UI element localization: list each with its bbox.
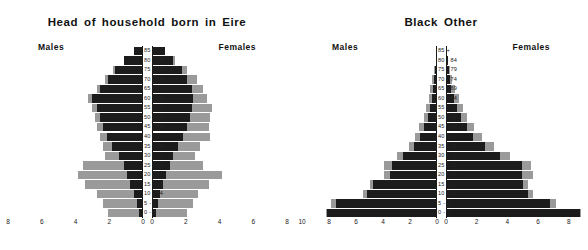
x-axis-tick: 10: [298, 218, 305, 225]
age-band-label: 70 - 74: [144, 75, 152, 85]
pyramid-bar-row: [446, 103, 581, 113]
pyramid-bar-row: [152, 151, 287, 161]
age-band-label-column-black-other: 85 +80 - 8475 - 7970 - 7465 - 6960 - 645…: [438, 40, 446, 218]
age-band-label: 65 - 69: [438, 84, 446, 94]
x-axis-tick: 2: [408, 218, 412, 225]
age-band-label: 5 - 9: [144, 199, 152, 209]
pyramid-bar-row: [446, 56, 581, 66]
x-axis-females-black-other: 02468: [446, 218, 581, 234]
bar-segment-dark: [134, 190, 143, 198]
plot-area-males-eire: [8, 46, 143, 218]
pyramid-bar-males: [326, 209, 437, 217]
age-band-label: 50 - 54: [144, 113, 152, 123]
x-axis-tick: 2: [184, 218, 188, 225]
pyramid-bar-row: [302, 199, 437, 209]
pyramid-bar-row: [8, 75, 143, 85]
age-band-label: 30 - 34: [438, 151, 446, 161]
pyramid-bar-row: [152, 113, 287, 123]
pyramid-bar-row: [152, 75, 287, 85]
x-axis-tick: 8: [567, 218, 571, 225]
bar-segment-dark: [100, 113, 143, 121]
bar-segment-dark: [435, 66, 437, 74]
bar-segment-dark: [124, 56, 143, 64]
pyramid-bar-males: [436, 56, 437, 64]
pyramid-bar-row: [8, 103, 143, 113]
x-axis-males-eire: 86420: [8, 218, 143, 234]
pyramid-bar-females: [152, 199, 193, 207]
bar-segment-dark: [446, 190, 528, 198]
pyramid-bar-males: [426, 104, 437, 112]
pyramid-bar-females: [446, 199, 556, 207]
pyramid-bar-row: [446, 161, 581, 171]
age-band-label: 60 - 64: [438, 94, 446, 104]
pyramid-bar-row: [302, 103, 437, 113]
bar-segment-dark: [107, 133, 143, 141]
pyramid-bar-row: [446, 46, 581, 56]
age-band-label: 45 - 49: [144, 122, 152, 132]
bar-segment-dark: [130, 180, 143, 188]
pyramid-bar-row: [8, 142, 143, 152]
bar-segment-dark: [433, 85, 437, 93]
bar-segment-dark: [134, 47, 143, 55]
age-band-label: 0 - 4: [144, 208, 152, 218]
age-band-label: 85 +: [144, 46, 152, 56]
pyramid-bar-females: [446, 180, 528, 188]
x-axis-tick: 4: [74, 218, 78, 225]
pyramid-bar-males: [429, 94, 437, 102]
pyramid-bar-females: [446, 171, 533, 179]
x-axis-tick: 6: [40, 218, 44, 225]
pyramid-bar-row: [8, 132, 143, 142]
pyramid-bar-females: [446, 190, 533, 198]
bar-segment-dark: [390, 171, 437, 179]
age-band-label: 25 - 29: [144, 161, 152, 171]
x-axis-males-black-other: 1086420: [302, 218, 437, 234]
pyramid-bar-row: [302, 56, 437, 66]
pyramid-bar-males: [108, 209, 143, 217]
pyramid-bar-row: [302, 132, 437, 142]
bar-segment-dark: [403, 152, 437, 160]
pyramid-bar-males: [409, 142, 437, 150]
pyramid-bar-males: [103, 199, 143, 207]
pyramid-bar-females: [152, 209, 187, 217]
pyramid-bar-row: [8, 170, 143, 180]
plot-area-males-black-other: [302, 46, 437, 218]
bar-segment-dark: [112, 142, 143, 150]
pyramid-bar-row: [8, 46, 143, 56]
pyramid-bar-row: [8, 151, 143, 161]
age-band-label: 40 - 44: [144, 132, 152, 142]
panel-black-other: Black Other Males Females 85 +80 - 8475 …: [294, 0, 588, 250]
pyramid-bar-males: [384, 171, 437, 179]
pyramid-bar-males: [100, 133, 143, 141]
pyramid-bar-males: [331, 199, 437, 207]
pyramid-bar-row: [302, 122, 437, 132]
pyramid-bar-row: [8, 161, 143, 171]
x-axis-tick: 6: [354, 218, 358, 225]
bar-segment-dark: [127, 171, 143, 179]
pyramid-bar-males: [134, 47, 143, 55]
pyramid-bar-row: [152, 180, 287, 190]
pyramid-bar-row: [8, 208, 143, 218]
bar-segment-dark: [327, 209, 437, 217]
age-band-label-column-eire: 85 +80 - 8475 - 7970 - 7465 - 6960 - 645…: [144, 40, 152, 218]
x-axis-tick: 6: [251, 218, 255, 225]
x-axis-tick: 2: [107, 218, 111, 225]
pyramid-bar-males: [105, 152, 143, 160]
pyramid-bar-row: [302, 189, 437, 199]
age-band-label: 10 - 14: [144, 189, 152, 199]
pyramid-bar-row: [446, 113, 581, 123]
age-band-label: 55 - 59: [438, 103, 446, 113]
pyramid-bar-row: [152, 132, 287, 142]
pyramid-bar-row: [152, 84, 287, 94]
bar-segment-dark: [424, 123, 437, 131]
pyramid-bar-row: [302, 75, 437, 85]
bar-segment-light: [152, 199, 193, 207]
pyramid-bar-row: [446, 132, 581, 142]
x-axis-tick: 4: [381, 218, 385, 225]
pyramid-bar-row: [446, 142, 581, 152]
pyramid-bar-males: [95, 113, 143, 121]
pyramid-bar-males: [397, 152, 437, 160]
pyramid-bar-males: [78, 171, 143, 179]
bar-segment-dark: [446, 171, 522, 179]
pyramid-bar-row: [302, 151, 437, 161]
x-axis-females-eire: 02468: [152, 218, 287, 234]
